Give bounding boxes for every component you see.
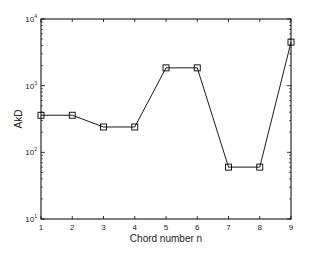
plot-area: 123456789101102103104 (25, 13, 294, 232)
y-axis-label: AkD (13, 110, 24, 129)
x-tick-label: 6 (195, 223, 200, 232)
x-tick-label: 1 (39, 223, 44, 232)
x-tick-label: 9 (289, 223, 294, 232)
x-tick-label: 4 (133, 223, 138, 232)
x-tick-label: 3 (101, 223, 106, 232)
axes-frame (41, 19, 291, 219)
x-tick-label: 8 (258, 223, 263, 232)
chart: 123456789101102103104 Chord number n AkD (0, 0, 311, 253)
y-tick-label: 104 (25, 13, 37, 24)
x-axis-label: Chord number n (130, 233, 202, 244)
x-tick-label: 7 (226, 223, 231, 232)
series-line (41, 42, 291, 167)
y-tick-label: 101 (25, 213, 37, 224)
y-tick-label: 103 (25, 80, 37, 91)
y-tick-label: 102 (25, 146, 37, 157)
x-tick-label: 2 (70, 223, 75, 232)
x-tick-label: 5 (164, 223, 169, 232)
